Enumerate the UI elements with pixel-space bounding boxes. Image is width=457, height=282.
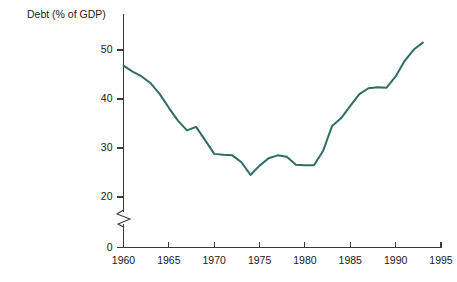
chart-figure: Debt (% of GDP) 020304050 19601965197019… [0, 0, 457, 282]
chart-title: Debt (% of GDP) [27, 8, 106, 20]
debt-to-gdp-line-chart: Debt (% of GDP) 020304050 19601965197019… [0, 0, 457, 282]
x-tick-label-1980: 1980 [293, 254, 317, 266]
x-tick-label-1990: 1990 [384, 254, 408, 266]
x-tick-label-1960: 1960 [112, 254, 136, 266]
y-tick-label-30: 30 [101, 141, 113, 153]
x-tick-label-1975: 1975 [248, 254, 272, 266]
x-tick-label-1965: 1965 [157, 254, 181, 266]
y-tick-label-50: 50 [101, 43, 113, 55]
y-tick-label-0: 0 [107, 241, 113, 253]
y-tick-label-20: 20 [101, 190, 113, 202]
chart-background [0, 0, 457, 282]
x-tick-label-1970: 1970 [203, 254, 227, 266]
x-tick-label-1985: 1985 [339, 254, 363, 266]
y-tick-label-40: 40 [101, 92, 113, 104]
x-tick-label-1995: 1995 [429, 254, 453, 266]
